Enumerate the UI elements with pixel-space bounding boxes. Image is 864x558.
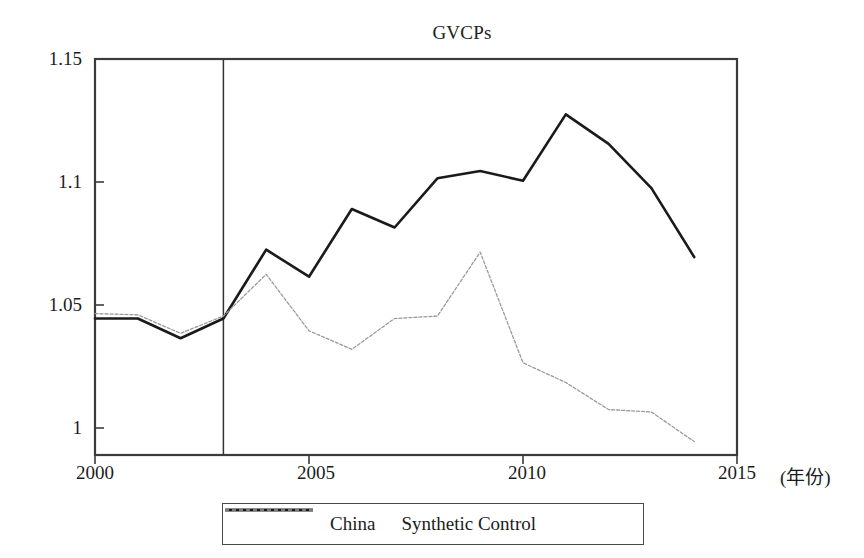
chart-legend: China Synthetic Control	[222, 503, 644, 545]
x-tick-label-0: 2000	[55, 462, 135, 484]
y-tick-label-0: 1.15	[14, 48, 82, 70]
x-axis-unit-label: (年份)	[780, 462, 831, 489]
legend-label-china: China	[330, 513, 375, 535]
x-tick-label-3: 2015	[697, 462, 777, 484]
y-tick-label-2: 1.05	[14, 294, 82, 316]
chart-figure: GVCPs 1.15 1.1 1.05 1 2000 2005 2010 201…	[0, 0, 864, 558]
legend-entry-synthetic-control: Synthetic Control	[401, 513, 536, 535]
series-line-china	[95, 114, 694, 338]
legend-label-synthetic-control: Synthetic Control	[401, 513, 536, 535]
y-tick-label-3: 1	[14, 417, 82, 439]
x-tick-label-1: 2005	[276, 462, 356, 484]
plot-frame	[95, 59, 737, 455]
legend-swatch-dashed-icon	[223, 504, 315, 516]
x-tick-label-2: 2010	[487, 462, 567, 484]
y-tick-label-1: 1.1	[14, 171, 82, 193]
series-line-synthetic-control	[95, 252, 694, 441]
legend-entry-china: China	[330, 513, 375, 535]
